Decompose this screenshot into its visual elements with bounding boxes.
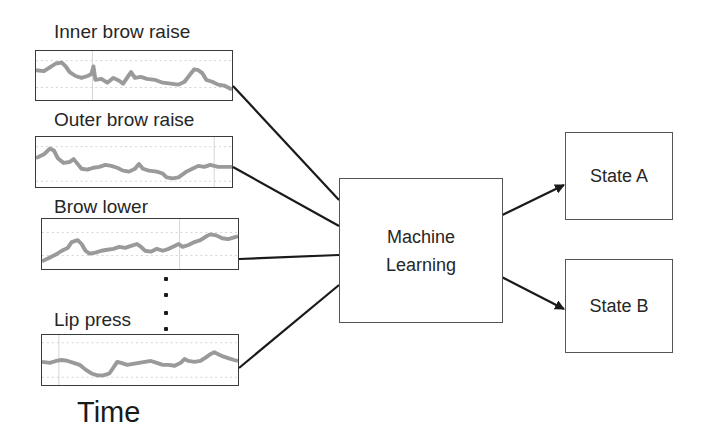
input-connector-4: [239, 285, 339, 368]
machine-learning-label-line1: Machine: [386, 223, 456, 251]
input-connector-1: [233, 86, 339, 200]
input-connector-3: [239, 255, 339, 259]
input-connector-2: [233, 167, 339, 226]
state-a-label: State A: [590, 162, 648, 190]
state-b-label: State B: [589, 292, 648, 320]
state-b-box: State B: [565, 259, 673, 353]
machine-learning-label-line2: Learning: [386, 251, 456, 279]
machine-learning-box: Machine Learning: [339, 178, 503, 323]
state-a-box: State A: [565, 132, 673, 220]
